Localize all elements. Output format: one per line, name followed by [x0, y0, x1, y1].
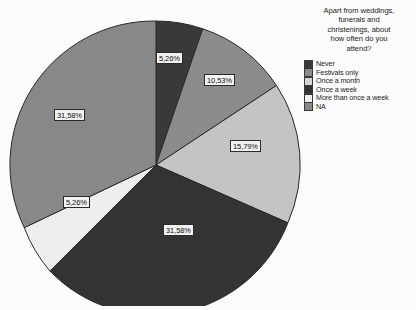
legend-swatch-icon-na [304, 102, 313, 111]
chart-title-line-4: how often do you [330, 34, 387, 43]
data-label-na: 31,58% [54, 109, 85, 121]
data-label-once-a-month: 15,79% [230, 140, 261, 152]
data-label-never: 5,26% [156, 52, 183, 64]
legend-item-once-a-month[interactable]: Once a month [304, 77, 414, 85]
pie-chart-plot-area: 5,26% 10,53% 15,79% 31,58% 5,26% 31,58% [8, 18, 304, 306]
chart-title-line-1: Apart from weddings, [324, 6, 395, 15]
legend-list: Never Festivals only Once a month Once a… [304, 60, 414, 111]
data-label-once-a-week: 31,58% [163, 224, 194, 236]
chart-title-line-2: funerals and [338, 15, 379, 24]
legend-panel: Apart from weddings, funerals and christ… [304, 6, 414, 111]
legend-item-never[interactable]: Never [304, 60, 414, 68]
legend-item-na[interactable]: NA [304, 103, 414, 111]
data-label-more-than-once-a-week: 5,26% [63, 196, 90, 208]
legend-label-more-than-once-a-week: More than once a week [316, 94, 389, 102]
legend-label-na: NA [316, 103, 326, 111]
pie-chart-screenshot: 5,26% 10,53% 15,79% 31,58% 5,26% 31,58% … [0, 0, 416, 310]
chart-title-line-3: christenings, about [328, 25, 391, 34]
legend-item-more-than-once-a-week[interactable]: More than once a week [304, 94, 414, 102]
chart-title-line-5: attend? [347, 44, 372, 53]
data-label-festivals-only: 10,53% [204, 74, 235, 86]
legend-label-once-a-month: Once a month [316, 77, 360, 85]
legend-label-never: Never [316, 60, 335, 68]
chart-title: Apart from weddings, funerals and christ… [304, 6, 414, 53]
